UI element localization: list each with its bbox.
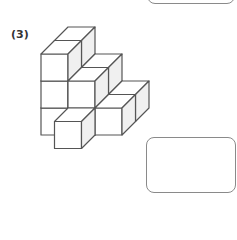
cube-front-face bbox=[95, 108, 122, 135]
cube-front-face bbox=[55, 122, 82, 149]
answer-box[interactable] bbox=[146, 137, 236, 193]
cube-front-face bbox=[41, 54, 68, 81]
cube-front-face bbox=[68, 81, 95, 108]
cube-front-face bbox=[41, 81, 68, 108]
